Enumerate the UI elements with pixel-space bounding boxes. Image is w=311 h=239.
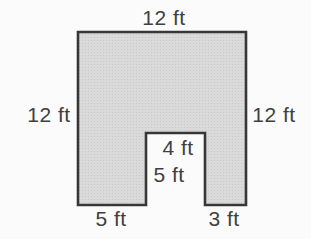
dimension-label-bottom-left-segment: 5 ft — [95, 208, 126, 229]
dimension-label-bottom-right-segment: 3 ft — [208, 208, 239, 229]
dimension-label-notch-depth: 5 ft — [153, 164, 184, 185]
dimension-label-left-height: 12 ft — [27, 104, 70, 125]
dimension-label-top-width: 12 ft — [142, 7, 185, 28]
dimension-label-right-height: 12 ft — [252, 104, 295, 125]
geometry-diagram: 12 ft 12 ft 12 ft 4 ft 5 ft 5 ft 3 ft — [0, 0, 311, 239]
dimension-label-notch-width: 4 ft — [162, 137, 193, 158]
